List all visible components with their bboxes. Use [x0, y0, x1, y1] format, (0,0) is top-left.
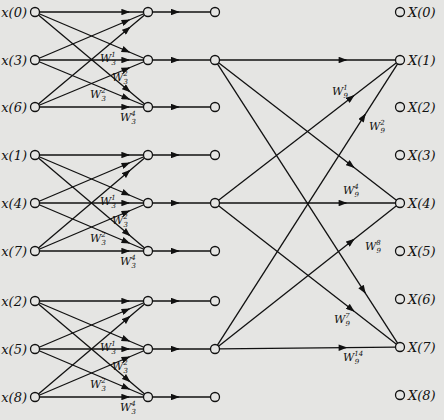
nodes [31, 8, 405, 402]
twiddle-label: W23 [112, 70, 129, 86]
input-node [31, 8, 40, 17]
input-label: x(1) [1, 148, 27, 163]
input-label: x(7) [1, 244, 27, 259]
output-label: X(3) [407, 148, 436, 163]
arrow-icon [126, 20, 129, 21]
output-label: X(7) [407, 340, 436, 355]
input-label: x(6) [1, 100, 27, 115]
output-label: X(8) [407, 388, 436, 403]
arrow-icon [127, 27, 129, 29]
arrow-icon [351, 309, 353, 311]
twiddle-label: W23 [112, 359, 129, 375]
input-label: x(0) [1, 5, 27, 20]
stage1-node [144, 199, 153, 208]
output-label: X(0) [407, 5, 436, 20]
stage2-node [211, 393, 220, 402]
arrow-icon [126, 194, 129, 195]
arrow-icon [351, 96, 353, 98]
arrow-icon [127, 380, 129, 382]
twiddle-label: W13 [100, 340, 117, 356]
twiddle-label: W29 [369, 119, 386, 135]
twiddle-label: W13 [100, 51, 117, 67]
output-node [396, 343, 405, 352]
arrow-icon [364, 290, 366, 293]
input-node [31, 56, 40, 65]
arrow-icon [126, 51, 129, 52]
output-label: X(6) [407, 292, 436, 307]
stage2-node [211, 8, 220, 17]
arrow-icon [126, 211, 129, 212]
arrow-icon [364, 114, 366, 117]
twiddle-label: W43 [120, 110, 137, 126]
twiddle-label: W23 [90, 87, 107, 103]
input-node [31, 247, 40, 256]
input-node [31, 199, 40, 208]
arrow-icon [126, 309, 129, 310]
flow-edge [219, 347, 395, 349]
arrow-icon [126, 98, 129, 99]
input-label: x(3) [1, 53, 27, 68]
arrow-icon [126, 340, 129, 341]
output-node [396, 295, 405, 304]
stage2-node [211, 199, 220, 208]
twiddle-label: W23 [90, 377, 107, 393]
input-node [31, 393, 40, 402]
output-node [396, 8, 405, 17]
arrow-icon [126, 242, 129, 243]
stage1-node [144, 297, 153, 306]
arrow-icon [127, 90, 129, 92]
arrow-icon [351, 165, 353, 167]
output-label: X(1) [407, 53, 436, 68]
input-label: x(5) [1, 342, 27, 357]
stage1-node [144, 247, 153, 256]
stage2-node [211, 297, 220, 306]
twiddle-label: W23 [112, 213, 129, 229]
input-node [31, 103, 40, 112]
input-label: x(4) [1, 196, 27, 211]
output-node [396, 247, 405, 256]
arrow-icon [351, 239, 353, 241]
twiddle-label: W43 [120, 400, 137, 416]
stage2-node [211, 103, 220, 112]
twiddle-label: W13 [100, 194, 117, 210]
arrow-icon [126, 357, 129, 358]
input-label: x(2) [1, 294, 27, 309]
arrow-icon [127, 171, 129, 173]
stage1-node [144, 345, 153, 354]
stage1-node [144, 393, 153, 402]
twiddle-label: W49 [343, 183, 360, 199]
twiddle-label: W149 [343, 350, 363, 366]
output-label: X(2) [407, 100, 436, 115]
stage2-node [211, 56, 220, 65]
output-node [396, 151, 405, 160]
input-node [31, 345, 40, 354]
arrow-icon [127, 317, 129, 319]
twiddle-label: W19 [332, 84, 349, 100]
twiddle-label: W23 [90, 231, 107, 247]
stage2-node [211, 151, 220, 160]
arrow-icon [126, 68, 129, 69]
arrow-icon [126, 388, 129, 389]
stage1-node [144, 151, 153, 160]
output-node [396, 103, 405, 112]
stage1-node [144, 8, 153, 17]
arrow-icon [127, 234, 129, 236]
output-label: X(4) [407, 196, 436, 211]
twiddle-label: W43 [120, 254, 137, 270]
input-label: x(8) [1, 390, 27, 405]
stage2-node [211, 247, 220, 256]
twiddle-label: W79 [334, 312, 351, 328]
output-node [396, 391, 405, 400]
input-node [31, 297, 40, 306]
fft-flow-graph: W13W23W23W43W13W23W23W43W13W23W23W43W19W… [0, 0, 444, 420]
twiddle-label: W89 [365, 239, 382, 255]
output-node [396, 56, 405, 65]
arrow-icon [126, 163, 129, 164]
output-node [396, 199, 405, 208]
input-node [31, 151, 40, 160]
stage1-node [144, 103, 153, 112]
stage1-node [144, 56, 153, 65]
output-label: X(5) [407, 244, 436, 259]
stage2-node [211, 345, 220, 354]
